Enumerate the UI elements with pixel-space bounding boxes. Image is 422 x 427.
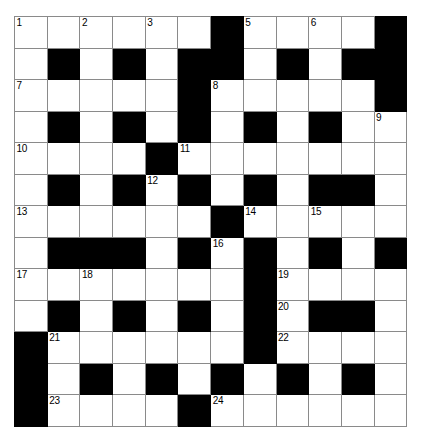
crossword-cell[interactable] (341, 111, 374, 143)
crossword-cell[interactable] (276, 395, 309, 427)
crossword-cell[interactable] (374, 332, 407, 364)
crossword-cell[interactable] (15, 111, 48, 143)
crossword-cell[interactable]: 23 (47, 395, 80, 427)
crossword-cell[interactable] (211, 300, 244, 332)
crossword-cell[interactable] (145, 395, 178, 427)
crossword-cell[interactable] (341, 269, 374, 301)
crossword-cell[interactable]: 21 (47, 332, 80, 364)
crossword-cell[interactable]: 1 (15, 17, 48, 49)
crossword-cell[interactable] (178, 332, 211, 364)
crossword-cell[interactable] (113, 80, 146, 112)
crossword-cell[interactable] (47, 206, 80, 238)
crossword-cell[interactable] (47, 17, 80, 49)
crossword-cell[interactable] (80, 332, 113, 364)
crossword-cell[interactable] (178, 363, 211, 395)
crossword-cell[interactable] (243, 80, 276, 112)
crossword-cell[interactable] (80, 395, 113, 427)
crossword-cell[interactable] (145, 269, 178, 301)
crossword-cell[interactable]: 15 (309, 206, 342, 238)
crossword-cell[interactable] (374, 206, 407, 238)
crossword-cell[interactable] (276, 17, 309, 49)
crossword-cell[interactable] (15, 300, 48, 332)
crossword-cell[interactable] (47, 143, 80, 175)
crossword-cell[interactable]: 3 (145, 17, 178, 49)
crossword-cell[interactable] (374, 269, 407, 301)
crossword-cell[interactable] (276, 111, 309, 143)
crossword-cell[interactable] (211, 111, 244, 143)
crossword-cell[interactable]: 8 (211, 80, 244, 112)
crossword-cell[interactable] (276, 174, 309, 206)
crossword-cell[interactable] (178, 17, 211, 49)
crossword-cell[interactable] (309, 80, 342, 112)
crossword-cell[interactable]: 14 (243, 206, 276, 238)
crossword-cell[interactable]: 11 (178, 143, 211, 175)
crossword-cell[interactable] (113, 332, 146, 364)
crossword-cell[interactable] (80, 300, 113, 332)
crossword-cell[interactable] (113, 17, 146, 49)
crossword-cell[interactable] (374, 174, 407, 206)
crossword-cell[interactable]: 12 (145, 174, 178, 206)
crossword-cell[interactable] (374, 300, 407, 332)
crossword-cell[interactable] (80, 143, 113, 175)
crossword-cell[interactable] (15, 48, 48, 80)
crossword-cell[interactable] (80, 48, 113, 80)
crossword-cell[interactable] (145, 206, 178, 238)
crossword-cell[interactable] (145, 111, 178, 143)
crossword-cell[interactable] (145, 48, 178, 80)
crossword-cell[interactable] (243, 395, 276, 427)
crossword-cell[interactable] (374, 143, 407, 175)
crossword-cell[interactable] (309, 363, 342, 395)
crossword-cell[interactable] (211, 143, 244, 175)
crossword-cell[interactable] (276, 143, 309, 175)
crossword-cell[interactable] (276, 206, 309, 238)
crossword-cell[interactable]: 18 (80, 269, 113, 301)
crossword-cell[interactable] (374, 363, 407, 395)
crossword-cell[interactable] (80, 206, 113, 238)
crossword-cell[interactable] (211, 332, 244, 364)
crossword-cell[interactable] (341, 206, 374, 238)
crossword-cell[interactable] (276, 237, 309, 269)
crossword-cell[interactable] (243, 143, 276, 175)
crossword-cell[interactable]: 13 (15, 206, 48, 238)
crossword-cell[interactable] (113, 363, 146, 395)
crossword-cell[interactable] (47, 363, 80, 395)
crossword-grid[interactable]: 12356789101112131415161718192021222324 (14, 16, 407, 427)
crossword-cell[interactable]: 2 (80, 17, 113, 49)
crossword-cell[interactable]: 16 (211, 237, 244, 269)
crossword-cell[interactable]: 19 (276, 269, 309, 301)
crossword-cell[interactable]: 9 (374, 111, 407, 143)
crossword-cell[interactable] (113, 206, 146, 238)
crossword-cell[interactable] (309, 269, 342, 301)
crossword-cell[interactable] (341, 332, 374, 364)
crossword-cell[interactable] (145, 300, 178, 332)
crossword-cell[interactable] (341, 237, 374, 269)
crossword-cell[interactable] (276, 80, 309, 112)
crossword-cell[interactable] (113, 395, 146, 427)
crossword-cell[interactable]: 22 (276, 332, 309, 364)
crossword-cell[interactable] (178, 206, 211, 238)
crossword-cell[interactable]: 24 (211, 395, 244, 427)
crossword-cell[interactable] (145, 332, 178, 364)
crossword-cell[interactable]: 5 (243, 17, 276, 49)
crossword-cell[interactable] (309, 332, 342, 364)
crossword-table[interactable]: 12356789101112131415161718192021222324 (14, 16, 407, 427)
crossword-cell[interactable] (341, 80, 374, 112)
crossword-cell[interactable] (113, 143, 146, 175)
crossword-cell[interactable] (15, 237, 48, 269)
crossword-cell[interactable] (145, 237, 178, 269)
crossword-cell[interactable]: 10 (15, 143, 48, 175)
crossword-cell[interactable] (113, 269, 146, 301)
crossword-cell[interactable] (309, 143, 342, 175)
crossword-cell[interactable] (341, 143, 374, 175)
crossword-cell[interactable]: 17 (15, 269, 48, 301)
crossword-cell[interactable] (80, 80, 113, 112)
crossword-cell[interactable] (374, 395, 407, 427)
crossword-cell[interactable] (211, 174, 244, 206)
crossword-cell[interactable] (341, 17, 374, 49)
crossword-cell[interactable] (80, 111, 113, 143)
crossword-cell[interactable] (47, 80, 80, 112)
crossword-cell[interactable]: 7 (15, 80, 48, 112)
crossword-cell[interactable] (15, 174, 48, 206)
crossword-cell[interactable] (341, 395, 374, 427)
crossword-cell[interactable] (211, 269, 244, 301)
